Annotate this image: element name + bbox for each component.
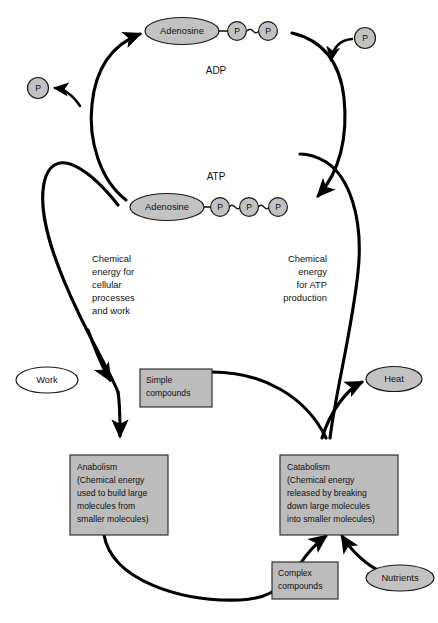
left-energy-line-3: cellular — [92, 279, 122, 290]
free-phosphate-released-label: P — [35, 83, 41, 93]
free-phosphate-incoming: P — [355, 28, 376, 49]
atp-molecule: Adenosine P P P — [130, 194, 287, 221]
nutrients-node: Nutrients — [366, 565, 434, 591]
work-node: Work — [16, 367, 78, 393]
complex-compounds-line-2: compounds — [278, 581, 322, 591]
atp-cycle-label: ATP — [207, 171, 226, 182]
adp-phosphate-2-label: P — [265, 26, 271, 36]
work-label: Work — [36, 375, 58, 385]
heat-node: Heat — [366, 367, 422, 392]
cycle-arc-left — [91, 34, 140, 200]
right-energy-line-2: energy — [298, 266, 327, 277]
atp-phosphate-1-label: P — [217, 202, 223, 212]
anabolism-node: Anabolism (Chemical energy used to build… — [70, 455, 168, 535]
anabolism-line-5: smaller molecules) — [77, 514, 149, 524]
adp-cycle-label: ADP — [206, 65, 227, 76]
anabolism-line-2: (Chemical energy — [77, 475, 145, 485]
adp-adenosine-label: Adenosine — [160, 26, 204, 36]
anabolism-line-3: used to build large — [77, 488, 147, 498]
catabolism-line-4: down large molecules — [287, 501, 370, 511]
complex-compounds-node: Complex compounds — [272, 562, 338, 599]
free-phosphate-incoming-label: P — [362, 33, 368, 43]
simple-compounds-line-1: Simple — [146, 375, 172, 385]
left-energy-label: Chemical energy for cellular processes a… — [92, 253, 135, 316]
complex-to-catabolism-flow — [300, 536, 326, 564]
right-energy-line-3: for ATP — [296, 279, 327, 290]
simple-to-catabolism-flow — [212, 372, 326, 438]
nutrients-label: Nutrients — [381, 573, 419, 583]
free-phosphate-released: P — [28, 78, 49, 99]
adp-molecule: Adenosine P P — [145, 18, 277, 45]
anabolism-to-complex-flow — [104, 535, 282, 600]
atp-cycle-diagram-root: Adenosine P P ADP Adenosine P P P ATP P — [0, 0, 438, 623]
phosphate-out-arrow — [55, 88, 80, 106]
anabolism-line-1: Anabolism — [77, 462, 117, 472]
simple-compounds-line-2: compounds — [146, 388, 190, 398]
catabolism-line-2: (Chemical energy — [287, 475, 355, 485]
right-energy-label: Chemical energy for ATP production — [283, 253, 327, 303]
phosphate-in-arrow — [331, 39, 352, 60]
catabolism-line-1: Catabolism — [287, 462, 330, 472]
catabolism-to-heat-flow — [322, 382, 362, 438]
catabolism-line-3: released by breaking — [287, 488, 367, 498]
catabolism-node: Catabolism (Chemical energy released by … — [280, 455, 398, 535]
left-energy-line-5: and work — [92, 305, 130, 316]
left-energy-line-1: Chemical — [92, 253, 131, 264]
catabolism-line-5: into smaller molecules) — [287, 514, 375, 524]
simple-compounds-node: Simple compounds — [140, 369, 212, 407]
atp-cycle-diagram: Adenosine P P ADP Adenosine P P P ATP P — [0, 0, 438, 623]
anabolism-line-4: molecules from — [77, 501, 135, 511]
adp-phosphate-1-label: P — [234, 26, 240, 36]
complex-compounds-line-1: Complex — [278, 568, 313, 578]
heat-label: Heat — [384, 374, 404, 384]
nutrients-to-catabolism-flow — [342, 536, 380, 571]
left-energy-line-4: processes — [92, 292, 135, 303]
right-energy-line-1: Chemical — [288, 253, 327, 264]
right-energy-line-4: production — [283, 292, 327, 303]
atp-adenosine-label: Adenosine — [145, 202, 189, 212]
left-energy-line-2: energy for — [92, 266, 134, 277]
atp-phosphate-2-label: P — [246, 202, 252, 212]
atp-phosphate-3-label: P — [275, 202, 281, 212]
